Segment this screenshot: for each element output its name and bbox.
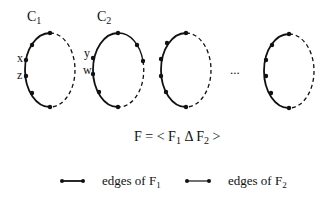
legend-item-f1: edges of F1 xyxy=(60,173,161,190)
cycle-4 xyxy=(264,32,314,110)
legend-label-f1: edges of F1 xyxy=(102,173,161,190)
vertex-label-z: z xyxy=(17,68,22,82)
vertex-label-y: y xyxy=(84,46,90,60)
symmetric-difference-diagram: ... C1 C2 x z y w F = < F1 Δ F2 > edges … xyxy=(0,0,327,210)
legend-item-f2: edges of F2 xyxy=(185,173,287,190)
cycle-3 xyxy=(159,31,211,109)
ellipsis: ... xyxy=(230,62,240,77)
cycle-c2 xyxy=(91,31,145,109)
cycle-c1 xyxy=(24,31,75,109)
vertex-label-x: x xyxy=(17,51,23,65)
vertex-label-w: w xyxy=(83,63,92,77)
label-c1: C1 xyxy=(27,9,41,26)
label-c2: C2 xyxy=(97,9,111,26)
legend-label-f2: edges of F2 xyxy=(228,173,287,190)
formula: F = < F1 Δ F2 > xyxy=(134,129,220,146)
